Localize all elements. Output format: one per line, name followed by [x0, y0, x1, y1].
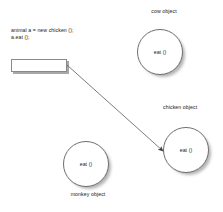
reference-variable-box[interactable] [11, 59, 67, 72]
chicken-object-label: chicken object [163, 104, 215, 110]
code-line-1: animal a = new chicken (); [11, 27, 141, 34]
code-snippet: animal a = new chicken (); a.eat (); [11, 27, 141, 41]
cow-object-circle[interactable]: eat () [137, 29, 183, 75]
code-line-2: a.eat (); [11, 34, 141, 41]
monkey-object-circle[interactable]: eat () [63, 141, 109, 187]
reference-arrow [67, 65, 163, 151]
object-diagram-canvas: animal a = new chicken (); a.eat (); cow… [0, 0, 223, 212]
cow-method-label: eat () [154, 49, 167, 55]
chicken-method-label: eat () [180, 147, 193, 153]
cow-object-label: cow object [141, 8, 187, 14]
monkey-object-label: monkey object [62, 191, 114, 197]
chicken-object-circle[interactable]: eat () [163, 127, 209, 173]
monkey-method-label: eat () [80, 161, 93, 167]
